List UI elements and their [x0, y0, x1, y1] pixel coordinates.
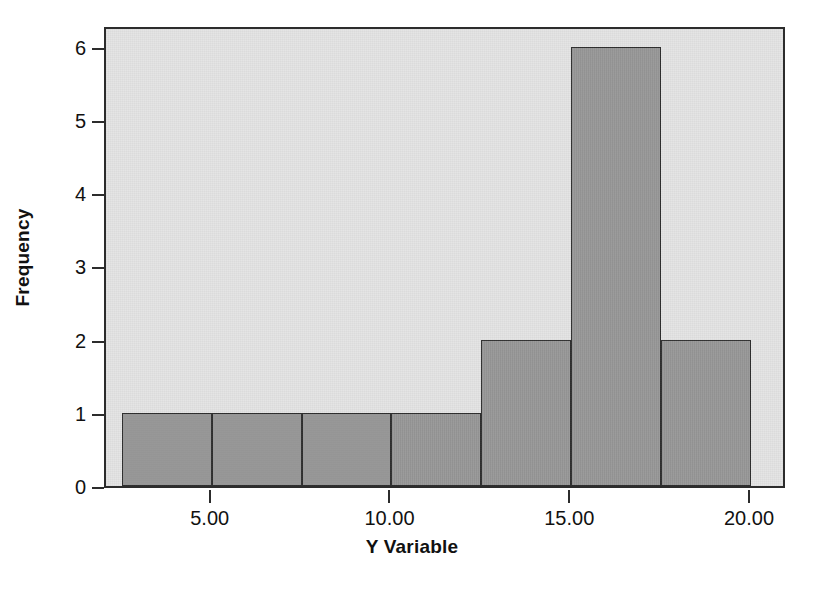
- y-axis-tick-mark: [92, 267, 104, 269]
- histogram-bar: [661, 340, 751, 486]
- y-axis-tick-label: 3: [60, 257, 86, 277]
- y-axis-tick-mark: [92, 341, 104, 343]
- x-axis-tick-mark: [568, 490, 570, 503]
- histogram-bar: [571, 47, 661, 486]
- y-axis-tick-label: 0: [60, 477, 86, 497]
- y-axis-tick-label: 2: [60, 331, 86, 351]
- histogram-bar: [391, 413, 481, 486]
- y-axis-tick-mark: [92, 48, 104, 50]
- histogram-figure: Frequency 0123456 5.0010.0015.0020.00 Y …: [0, 0, 824, 591]
- x-axis-label: Y Variable: [0, 536, 824, 558]
- plot-area: [104, 27, 785, 488]
- x-axis-tick-label: 5.00: [190, 508, 229, 528]
- x-axis-tick-label: 15.00: [544, 508, 594, 528]
- y-axis-tick-mark: [92, 414, 104, 416]
- x-axis-tick-label: 20.00: [724, 508, 774, 528]
- y-axis-tick-mark: [92, 487, 104, 489]
- x-axis-tick-label: 10.00: [364, 508, 414, 528]
- x-axis-tick-mark: [209, 490, 211, 503]
- histogram-bar: [481, 340, 571, 486]
- y-axis-tick-mark: [92, 121, 104, 123]
- y-axis-tick-label: 4: [60, 184, 86, 204]
- x-axis-tick-mark: [748, 490, 750, 503]
- y-axis-tick-label: 5: [60, 111, 86, 131]
- histogram-bar: [212, 413, 302, 486]
- x-axis-tick-mark: [388, 490, 390, 503]
- y-axis-tick-label: 6: [60, 38, 86, 58]
- y-axis-label: Frequency: [6, 27, 40, 488]
- histogram-bar: [122, 413, 212, 486]
- histogram-bar: [302, 413, 392, 486]
- y-axis-tick-mark: [92, 194, 104, 196]
- y-axis-tick-label: 1: [60, 404, 86, 424]
